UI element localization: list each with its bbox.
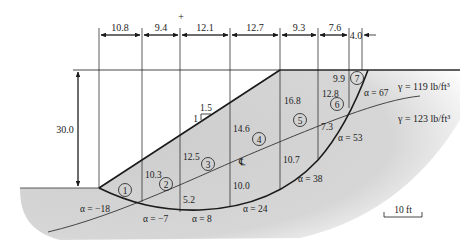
- slope-run-label: 1.5: [200, 103, 212, 113]
- height-slice-6: 12.8: [322, 89, 339, 99]
- slice-id-6: 6: [335, 100, 340, 110]
- centerline-icon: ℄: [238, 157, 246, 167]
- width-label-4: 12.7: [246, 22, 264, 33]
- width-label-5: 9.3: [293, 22, 306, 33]
- height-slice-5: 16.8: [284, 96, 301, 106]
- height-label: 30.0: [56, 124, 74, 135]
- upper-layer-unit-weight: γ = 119 lb/ft³: [397, 81, 450, 92]
- lower-layer-unit-weight: γ = 123 lb/ft³: [397, 113, 450, 124]
- width-label-3: 12.1: [196, 22, 214, 33]
- alpha-slice-6: α = 53: [338, 133, 363, 143]
- alpha-slice-5: α = 38: [298, 174, 323, 184]
- slice-id-4: 4: [257, 135, 262, 145]
- height-slice-4: 14.6: [233, 124, 250, 134]
- slope-diagram: 10.8 9.4 12.1 12.7 9.3 7.6 4.0 + 30.0 1.…: [0, 0, 467, 247]
- height-slice-3: 12.5: [183, 152, 200, 162]
- width-label-1: 10.8: [111, 22, 129, 33]
- lower-height-5: 10.7: [283, 155, 300, 165]
- alpha-slice-4: α = 24: [243, 204, 268, 214]
- alpha-slice-3: α = 8: [192, 214, 212, 224]
- width-label-2: 9.4: [155, 22, 168, 33]
- alpha-slice-2: α = −7: [143, 214, 168, 224]
- slice-id-7: 7: [355, 74, 360, 84]
- width-label-6: 7.6: [329, 22, 342, 33]
- height-slice-7: 9.9: [333, 74, 345, 84]
- scale-bar-label: 10 ft: [394, 205, 412, 215]
- width-labels: 10.8 9.4 12.1 12.7 9.3 7.6 4.0: [111, 22, 362, 41]
- slope-rise-label: 1: [193, 114, 198, 124]
- height-slice-2: 10.3: [145, 170, 162, 180]
- width-label-7: 4.0: [350, 30, 363, 41]
- lower-height-4: 10.0: [233, 181, 250, 191]
- slice-id-3: 3: [206, 160, 211, 170]
- lower-height-6: 7.3: [321, 122, 333, 132]
- slice-id-5: 5: [298, 116, 303, 126]
- slice-id-2: 2: [164, 180, 169, 190]
- slice-id-1: 1: [123, 186, 128, 196]
- alpha-slice-1: α = −18: [80, 204, 110, 214]
- lower-height-3: 5.2: [183, 195, 195, 205]
- alpha-slice-7: α = 67: [364, 88, 389, 98]
- circle-center-mark: +: [178, 11, 184, 22]
